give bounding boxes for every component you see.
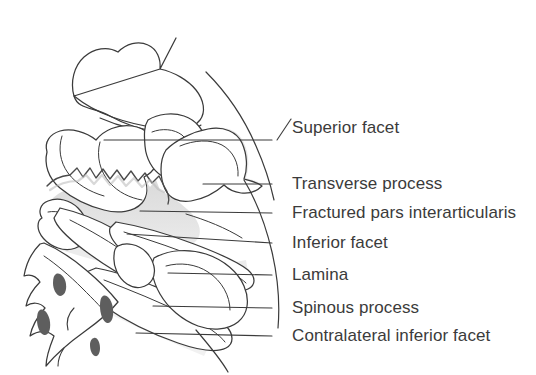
label-contralateral-inferior-facet: Contralateral inferior facet (292, 327, 490, 344)
anatomy-figure: Superior facet Transverse process Fractu… (0, 0, 536, 375)
posterior-element-outline (244, 180, 279, 328)
label-fractured-pars-interarticularis: Fractured pars interarticularis (292, 204, 516, 221)
bone-group (24, 38, 279, 372)
label-transverse-process: Transverse process (292, 175, 442, 192)
anatomy-illustration (0, 0, 536, 375)
label-lamina: Lamina (292, 266, 348, 283)
label-superior-facet: Superior facet (292, 119, 399, 136)
sacral-foramen-4 (90, 338, 100, 356)
label-spinous-process: Spinous process (292, 299, 419, 316)
label-inferior-facet: Inferior facet (292, 234, 388, 251)
leader-tick-superior-facet (277, 119, 291, 140)
